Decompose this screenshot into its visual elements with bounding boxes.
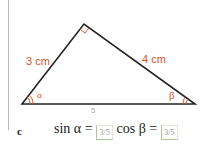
question-letter: c [17, 125, 22, 137]
side-left-label: 3 cm [26, 55, 50, 67]
hypotenuse-annotation: 5 [91, 106, 95, 115]
cos-label: cos β = [117, 121, 158, 136]
angle-alpha-label: α [37, 90, 42, 100]
cos-answer-input[interactable]: 3/5 [161, 125, 178, 140]
side-right-label: 4 cm [142, 53, 166, 65]
equation-line: sin α = 3/5 cos β = 3/5 [54, 121, 178, 140]
sin-label: sin α = [54, 121, 93, 136]
sin-answer-input[interactable]: 3/5 [96, 125, 113, 140]
angle-beta-label: β [169, 89, 175, 101]
